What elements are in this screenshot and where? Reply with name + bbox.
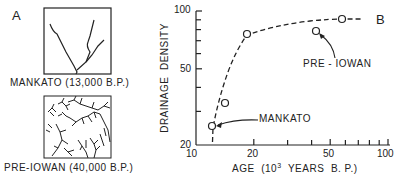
pre-iowan-annotation: PRE - IOWAN: [303, 58, 371, 69]
data-point: [222, 100, 229, 107]
data-point-pre-iowan: [313, 28, 320, 35]
x-tick-20: 20: [247, 148, 258, 159]
data-point: [339, 16, 346, 23]
data-point-mankato: [209, 123, 216, 130]
mankato-annotation: MANKATO: [259, 113, 311, 124]
annotation-arrows: [218, 35, 335, 125]
y-tick-100: 100: [174, 4, 191, 15]
mankato-caption: MANKATO (13,000 B.P.): [10, 77, 129, 88]
x-axis-label-prefix: AGE (10: [232, 163, 277, 174]
x-axis-label-suffix: YEARS B. P.): [282, 163, 358, 174]
x-axis-label: AGE (103 YEARS B. P.): [232, 162, 358, 174]
pre-iowan-drainage-map: [44, 96, 111, 158]
y-tick-50: 50: [180, 63, 191, 74]
panel-b-letter: B: [376, 12, 385, 27]
data-point: [244, 31, 251, 38]
y-axis-label: DRAINAGE DENSITY: [159, 23, 170, 133]
figure-canvas: [0, 0, 400, 184]
chart-axes: [196, 11, 390, 145]
mankato-drainage-map: [44, 8, 111, 74]
pre-iowan-caption: PRE-IOWAN (40,000 B.P.): [4, 162, 133, 173]
x-tick-50: 50: [323, 148, 334, 159]
x-tick-10: 10: [186, 148, 197, 159]
x-tick-100: 100: [377, 148, 394, 159]
